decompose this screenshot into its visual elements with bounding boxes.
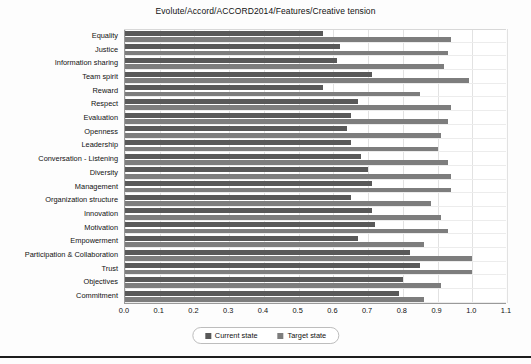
- bar-current-state: [125, 31, 323, 36]
- legend-item[interactable]: Current state: [205, 331, 258, 340]
- bar-row: [125, 275, 506, 289]
- bar-row: [125, 207, 506, 221]
- bar-current-state: [125, 85, 323, 90]
- x-tick-label: 1.1: [501, 306, 511, 315]
- category-label: Respect: [91, 100, 118, 108]
- bar-current-state: [125, 291, 399, 296]
- bar-current-state: [125, 99, 358, 104]
- bar-current-state: [125, 195, 351, 200]
- category-label: Equality: [92, 32, 118, 40]
- x-tick-label: 0.8: [397, 306, 407, 315]
- bar-current-state: [125, 167, 368, 172]
- bar-row: [125, 152, 506, 166]
- category-label: Commitment: [76, 292, 118, 300]
- legend-item[interactable]: Target state: [278, 331, 327, 340]
- category-label: Trust: [101, 265, 118, 273]
- category-label: Diversity: [90, 169, 118, 177]
- bar-row: [125, 29, 506, 43]
- bar-current-state: [125, 113, 351, 118]
- bar-current-state: [125, 277, 403, 282]
- bar-row: [125, 262, 506, 276]
- legend-swatch-icon: [205, 333, 211, 339]
- x-tick-label: 0.9: [431, 306, 441, 315]
- category-label: Management: [75, 183, 118, 191]
- category-label: Empowerment: [70, 237, 118, 245]
- x-tick-label: 0.6: [327, 306, 337, 315]
- bar-row: [125, 43, 506, 57]
- bar-current-state: [125, 58, 337, 63]
- bar-row: [125, 166, 506, 180]
- bar-row: [125, 56, 506, 70]
- category-label: Reward: [93, 87, 118, 95]
- category-label: Evaluation: [83, 114, 118, 122]
- x-tick-label: 0.2: [188, 306, 198, 315]
- bar-current-state: [125, 72, 372, 77]
- chart-container: Evolute/Accord/ACCORD2014/Features/Creat…: [0, 0, 531, 364]
- bar-row: [125, 193, 506, 207]
- x-tick-label: 0.3: [223, 306, 233, 315]
- category-label: Leadership: [81, 141, 118, 149]
- bar-row: [125, 84, 506, 98]
- category-label: Motivation: [84, 224, 118, 232]
- x-tick-label: 0.4: [258, 306, 268, 315]
- bar-row: [125, 111, 506, 125]
- bar-current-state: [125, 250, 410, 255]
- bar-row: [125, 289, 506, 303]
- category-label: Objectives: [83, 278, 118, 286]
- bar-current-state: [125, 154, 361, 159]
- category-label: Conversation - Listening: [38, 155, 118, 163]
- bar-rows: [125, 29, 506, 303]
- chart-legend: Current stateTarget state: [192, 327, 339, 344]
- bar-row: [125, 248, 506, 262]
- category-label: Information sharing: [55, 59, 118, 67]
- bar-current-state: [125, 236, 358, 241]
- category-label: Innovation: [84, 210, 118, 218]
- bar-row: [125, 70, 506, 84]
- x-tick-label: 0.0: [119, 306, 129, 315]
- bar-current-state: [125, 222, 375, 227]
- bar-row: [125, 221, 506, 235]
- bar-current-state: [125, 263, 420, 268]
- bar-row: [125, 139, 506, 153]
- x-tick-label: 0.5: [292, 306, 302, 315]
- plot-top-edge: [124, 29, 506, 30]
- legend-label: Target state: [288, 331, 327, 340]
- bar-row: [125, 97, 506, 111]
- category-label: Justice: [95, 46, 118, 54]
- chart-title: Evolute/Accord/ACCORD2014/Features/Creat…: [0, 6, 531, 16]
- category-label: Openness: [84, 128, 118, 136]
- category-label: Team spirit: [82, 73, 118, 81]
- bar-current-state: [125, 208, 372, 213]
- category-axis-labels: EqualityJusticeInformation sharingTeam s…: [0, 29, 121, 303]
- bar-current-state: [125, 126, 347, 131]
- bar-row: [125, 180, 506, 194]
- bar-row: [125, 234, 506, 248]
- x-axis-tick-labels: 0.00.10.20.30.40.50.60.70.80.91.01.1: [0, 306, 531, 320]
- bar-row: [125, 125, 506, 139]
- x-tick-label: 0.1: [154, 306, 164, 315]
- bar-current-state: [125, 181, 372, 186]
- bar-current-state: [125, 44, 340, 49]
- x-tick-label: 1.0: [466, 306, 476, 315]
- legend-label: Current state: [215, 331, 258, 340]
- bottom-rule: [0, 356, 531, 358]
- category-label: Organization structure: [45, 196, 118, 204]
- category-label: Participation & Collaboration: [25, 251, 118, 259]
- gridline: [507, 29, 508, 303]
- legend-swatch-icon: [278, 333, 284, 339]
- x-axis-line: [124, 303, 506, 304]
- plot-area: [124, 29, 506, 303]
- bar-current-state: [125, 140, 351, 145]
- x-tick-label: 0.7: [362, 306, 372, 315]
